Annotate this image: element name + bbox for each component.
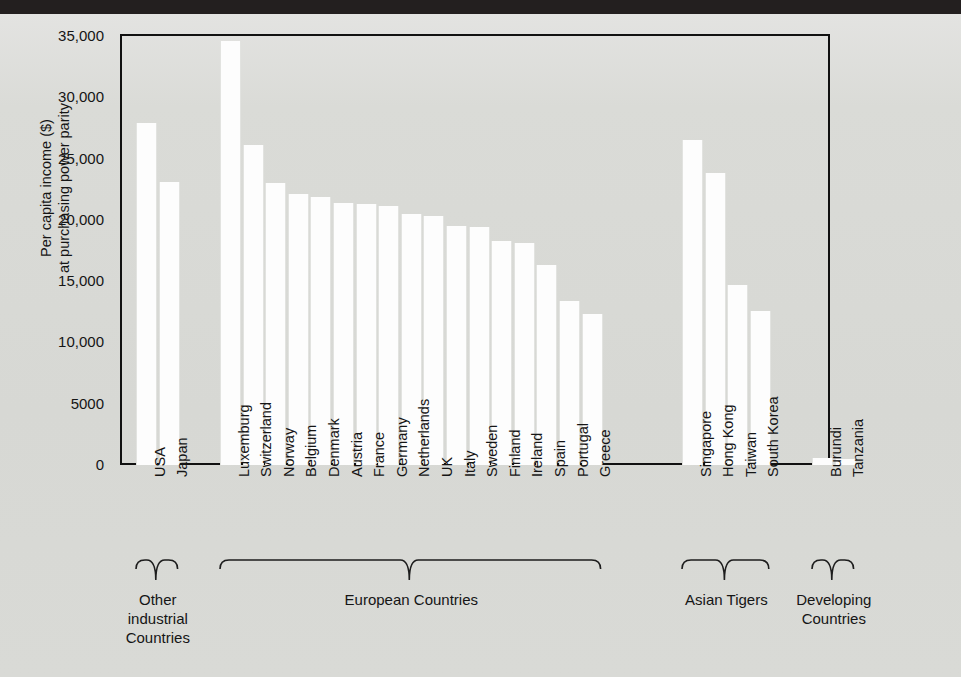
x-axis-category-label: Taiwan	[744, 432, 759, 477]
x-axis-category-label: Belgium	[304, 425, 319, 477]
x-axis-category-label: Spain	[553, 440, 568, 477]
x-axis-category-label: Singapore	[699, 411, 714, 477]
x-axis-category-label: Greece	[598, 429, 613, 477]
x-axis-category-label: Italy	[463, 450, 478, 477]
group-brace-icon	[680, 558, 773, 584]
y-axis-tick-label: 30,000	[58, 89, 104, 104]
x-axis-category-label: Tanzania	[851, 419, 866, 477]
x-axis-category-label: UK	[440, 457, 455, 477]
y-axis-tick-label: 10,000	[58, 334, 104, 349]
bar	[136, 123, 157, 465]
x-axis-category-label: Ireland	[530, 433, 545, 477]
group-label: OtherindustrialCountries	[73, 590, 243, 647]
x-axis-category-label: South Korea	[766, 396, 781, 477]
y-axis-ticks: 0500010,00015,00020,00025,00030,00035,00…	[0, 0, 116, 677]
x-axis-category-label: Japan	[175, 437, 190, 477]
y-axis-tick-label: 5000	[71, 396, 104, 411]
x-axis-category-label: Burundi	[829, 427, 844, 477]
group-label-line: Other	[73, 590, 243, 609]
y-axis-tick-label: 0	[96, 457, 104, 472]
bar	[220, 41, 241, 465]
group-label-line: Developing	[749, 590, 919, 609]
bar	[159, 182, 180, 465]
x-axis-category-label: Luxemburg	[237, 404, 252, 477]
group-label-line: Countries	[749, 609, 919, 628]
x-axis-category-label: Portugal	[576, 423, 591, 477]
x-axis-category-label: Netherlands	[417, 399, 432, 477]
bar-chart-figure: Per capita income ($) at purchasing powe…	[0, 0, 961, 677]
x-axis-category-label: Switzerland	[259, 402, 274, 477]
y-axis-tick-label: 20,000	[58, 212, 104, 227]
bar	[356, 204, 377, 465]
x-axis-category-label: Austria	[350, 432, 365, 477]
y-axis-tick-label: 15,000	[58, 273, 104, 288]
x-axis-category-label: Sweden	[485, 425, 500, 477]
group-brace-icon	[810, 558, 858, 584]
group-label-line: industrial	[73, 609, 243, 628]
x-axis-category-label: USA	[153, 447, 168, 477]
x-axis-category-label: Norway	[282, 428, 297, 477]
bar	[446, 226, 467, 465]
x-axis-category-label: Denmark	[327, 418, 342, 477]
x-axis-category-label: France	[372, 432, 387, 477]
x-axis-category-label: Finland	[508, 429, 523, 477]
group-label: European Countries	[326, 590, 496, 609]
x-axis-category-label: Hong Kong	[721, 404, 736, 477]
bars-container	[122, 36, 828, 465]
y-axis-tick-label: 35,000	[58, 28, 104, 43]
group-brace-icon	[134, 558, 182, 584]
group-label: DevelopingCountries	[749, 590, 919, 628]
group-label-line: Countries	[73, 628, 243, 647]
y-axis-tick-label: 25,000	[58, 151, 104, 166]
group-brace-icon	[218, 558, 605, 584]
x-axis-category-label: Germany	[395, 417, 410, 477]
group-label-line: European Countries	[326, 590, 496, 609]
